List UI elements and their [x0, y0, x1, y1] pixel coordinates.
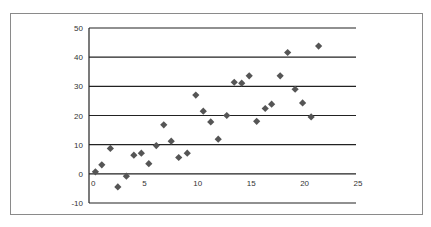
data-point-diamond: [130, 152, 137, 159]
data-point-diamond: [145, 160, 152, 167]
data-point-diamond: [299, 99, 306, 106]
x-tick-label: 5: [142, 179, 147, 188]
data-point-diamond: [238, 80, 245, 87]
data-point-diamond: [268, 101, 275, 108]
data-point-diamond: [184, 150, 191, 157]
data-point-diamond: [98, 161, 105, 168]
data-point-diamond: [308, 113, 315, 120]
data-point-diamond: [200, 108, 207, 115]
data-point-diamond: [192, 91, 199, 98]
y-tick-label: 50: [74, 24, 83, 33]
scatter-chart: -10010203040500510152025: [0, 0, 431, 227]
data-point-diamond: [215, 136, 222, 143]
x-tick-label: 15: [247, 179, 256, 188]
data-point-diamond: [153, 142, 160, 149]
data-point-diamond: [315, 42, 322, 49]
data-point-diamond: [175, 154, 182, 161]
x-tick-label: 25: [354, 179, 363, 188]
y-tick-label: 0: [79, 170, 84, 179]
data-point-diamond: [168, 138, 175, 145]
y-tick-label: -10: [71, 199, 83, 208]
y-tick-label: 20: [74, 112, 83, 121]
data-point-diamond: [107, 145, 114, 152]
y-tick-label: 10: [74, 141, 83, 150]
data-point-diamond: [114, 183, 121, 190]
data-point-diamond: [138, 150, 145, 157]
data-point-diamond: [253, 118, 260, 125]
data-point-diamond: [277, 72, 284, 79]
data-point-diamond: [262, 105, 269, 112]
data-point-diamond: [284, 49, 291, 56]
data-point-diamond: [207, 118, 214, 125]
x-tick-label: 0: [91, 179, 96, 188]
data-point-diamond: [160, 121, 167, 128]
x-tick-label: 20: [300, 179, 309, 188]
y-tick-label: 40: [74, 53, 83, 62]
y-tick-label: 30: [74, 82, 83, 91]
x-tick-label: 10: [193, 179, 202, 188]
data-point-diamond: [246, 72, 253, 79]
data-point-diamond: [231, 79, 238, 86]
data-point-diamond: [223, 112, 230, 119]
